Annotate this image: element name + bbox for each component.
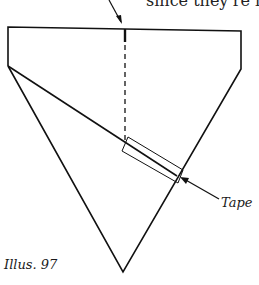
tape-label: Tape xyxy=(221,195,252,210)
tape-pointer-arrow xyxy=(180,177,219,199)
figure-caption: Illus. 97 xyxy=(4,257,57,272)
illustration: since they're in Tape Illus. 97 xyxy=(0,0,259,285)
top-text-fragment: since they're in xyxy=(146,0,259,10)
diagonal-fold-line xyxy=(8,66,177,176)
paper-fold-diagram xyxy=(0,0,259,285)
top-pointer-arrow xyxy=(109,0,122,24)
